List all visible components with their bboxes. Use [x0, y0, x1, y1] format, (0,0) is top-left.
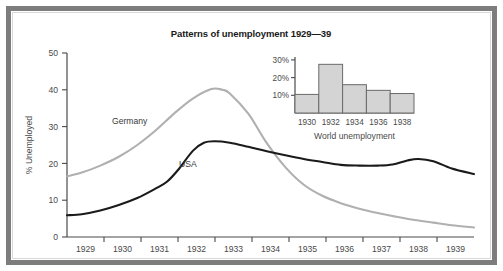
figure-root: Patterns of unemployment 1929—39 50 40 3…: [0, 0, 503, 271]
y-tick-label-10: 10: [48, 195, 58, 205]
x-tick-label-1939: 1939: [446, 244, 465, 254]
x-tick-label-1931: 1931: [150, 244, 169, 254]
x-tick-label-1936: 1936: [335, 244, 354, 254]
inset-bar: [343, 85, 367, 113]
inset-y-tick-label-10: 10%: [273, 91, 289, 100]
inset-y-tick-label-20: 20%: [273, 74, 289, 83]
series-label-germany: Germany: [112, 116, 148, 126]
y-tick-label-40: 40: [48, 85, 58, 95]
chart-canvas: Patterns of unemployment 1929—39 50 40 3…: [0, 0, 503, 271]
inset-bar: [366, 90, 390, 113]
x-tick-label-1938: 1938: [409, 244, 428, 254]
chart-title: Patterns of unemployment 1929—39: [171, 28, 331, 39]
inset-cat-label-1934: 1934: [345, 118, 364, 127]
x-tick-label-1937: 1937: [372, 244, 391, 254]
y-tick-label-50: 50: [48, 48, 58, 58]
x-tick-label-1929: 1929: [76, 244, 95, 254]
inset-cat-label-1936: 1936: [369, 118, 388, 127]
inset-cat-label-1930: 1930: [298, 118, 317, 127]
y-tick-label-30: 30: [48, 122, 58, 132]
inset-bar: [319, 64, 343, 113]
inset-bars-group: [295, 64, 414, 113]
x-tick-label-1935: 1935: [298, 244, 317, 254]
x-tick-label-1932: 1932: [187, 244, 206, 254]
inset-bar: [295, 94, 319, 113]
inset-bar: [390, 94, 414, 113]
series-label-usa: USA: [179, 159, 197, 169]
x-tick-label-1934: 1934: [261, 244, 280, 254]
y-tick-label-20: 20: [48, 159, 58, 169]
y-tick-label-0: 0: [53, 232, 58, 242]
inset-bar-chart: 30% 20% 10% 1930 1932 1934 1936 1938 Wor…: [273, 56, 414, 141]
inset-chart-title: World unemployment: [314, 131, 396, 141]
x-tick-label-1933: 1933: [224, 244, 243, 254]
inset-y-tick-label-30: 30%: [273, 56, 289, 65]
x-axis-ticks: [104, 237, 437, 242]
x-tick-label-1930: 1930: [113, 244, 132, 254]
y-axis-ticks: [62, 53, 67, 237]
inset-cat-label-1938: 1938: [393, 118, 412, 127]
inset-cat-label-1932: 1932: [322, 118, 341, 127]
y-axis-title: % Unemployed: [24, 116, 34, 174]
